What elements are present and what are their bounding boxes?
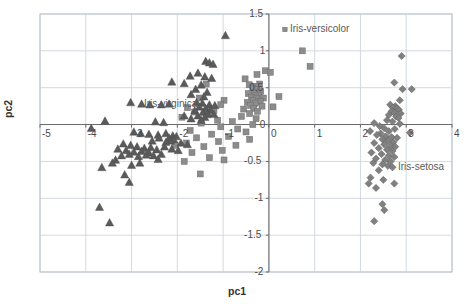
data-point-square <box>235 126 241 132</box>
data-point-square <box>215 117 221 123</box>
y-axis-title: pc2 <box>2 100 14 118</box>
x-tick-label: -1 <box>225 129 234 139</box>
data-point-square <box>194 135 200 141</box>
y-tick-label: 0 <box>260 120 266 130</box>
data-point-square <box>238 113 244 119</box>
data-point-square <box>254 71 260 77</box>
x-tick-label: -4 <box>88 129 97 139</box>
scatter-plot-figure: pc2 pc1 -5-4-3-2-1012341.510.50-0.5-1-1.… <box>0 0 467 304</box>
x-tick-label: -3 <box>134 129 143 139</box>
y-tick-label: -0.5 <box>244 156 261 166</box>
series-annotation-label: Iris-versicolor <box>290 23 349 34</box>
data-point-square <box>270 104 276 110</box>
x-tick-label: -2 <box>179 129 188 139</box>
data-point-square <box>216 139 222 145</box>
data-point-square <box>221 157 227 163</box>
data-point-square <box>233 142 239 148</box>
x-tick-label: 2 <box>362 129 368 139</box>
data-point-square <box>218 102 224 108</box>
data-point-square <box>247 111 253 117</box>
data-point-square <box>219 147 225 153</box>
data-point-square <box>197 171 203 177</box>
x-tick-label: -5 <box>42 129 51 139</box>
x-tick-label: 3 <box>408 129 414 139</box>
series-annotation-label: Iris-virginica <box>144 98 197 109</box>
data-point-square <box>250 122 256 128</box>
data-point-square <box>229 119 235 125</box>
data-point-square <box>299 48 305 54</box>
annotation-marker-square <box>283 27 288 32</box>
y-tick-label: -1.5 <box>244 230 261 240</box>
y-tick-label: 1.5 <box>249 9 263 19</box>
data-point-square <box>253 116 259 122</box>
y-tick-label: 1 <box>260 46 266 56</box>
y-tick-label: 0.5 <box>249 83 263 93</box>
data-point-square <box>243 129 249 135</box>
x-tick-label: 1 <box>317 129 323 139</box>
data-point-square <box>241 106 247 112</box>
data-point-square <box>247 136 253 142</box>
y-tick-label: -1 <box>254 193 263 203</box>
data-point-square <box>242 76 248 82</box>
data-point-square <box>209 131 215 137</box>
data-point-square <box>206 155 212 161</box>
data-point-square <box>201 144 207 150</box>
x-tick-label: 0 <box>271 129 277 139</box>
data-point-square <box>181 158 187 164</box>
data-point-square <box>307 63 313 69</box>
plot-canvas <box>0 0 467 304</box>
data-point-square <box>254 108 260 114</box>
y-tick-label: -2 <box>254 267 263 277</box>
data-point-square <box>276 94 282 100</box>
data-point-square <box>267 69 273 75</box>
data-point-square <box>189 150 195 156</box>
data-point-square <box>218 124 224 130</box>
series-annotation-label: Iris-setosa <box>398 161 444 172</box>
x-axis-title: pc1 <box>228 285 246 297</box>
x-tick-label: 4 <box>454 129 460 139</box>
